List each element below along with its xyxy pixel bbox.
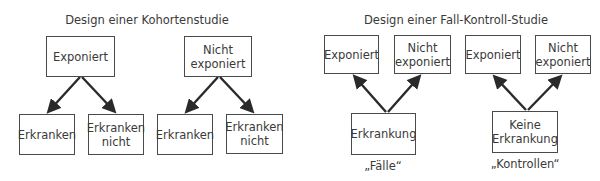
cohort-exposed-not-sick-label: Erkranken nicht xyxy=(87,121,145,149)
arrow-exposed-to-not-sick xyxy=(82,77,114,111)
controls-not-exposed-box: Nicht exponiert xyxy=(535,35,591,74)
controls-exposed-label: Exponiert xyxy=(465,48,520,62)
cohort-exposed-label: Exponiert xyxy=(53,50,108,64)
arrow-cases-to-exposed xyxy=(355,77,386,112)
cases-not-exposed-label: Nicht exponiert xyxy=(395,41,450,69)
cohort-not-exposed-not-sick-label: Erkranken nicht xyxy=(225,120,283,148)
cases-exposed-label: Exponiert xyxy=(324,48,379,62)
cohort-not-exposed-box: Nicht exponiert xyxy=(184,36,252,77)
cohort-exposed-not-sick-box: Erkranken nicht xyxy=(88,114,144,155)
controls-not-exposed-label: Nicht exponiert xyxy=(536,41,591,69)
controls-label: Keine Erkrankung xyxy=(492,118,558,146)
arrow-controls-to-not-exposed xyxy=(528,77,560,110)
controls-exposed-box: Exponiert xyxy=(465,35,521,74)
cases-not-exposed-box: Nicht exponiert xyxy=(394,35,451,74)
cases-label: Erkrankung xyxy=(351,127,417,141)
case-control-title: Design einer Fall-Kontroll-Studie xyxy=(364,13,548,27)
arrow-controls-to-exposed xyxy=(495,77,526,110)
arrow-not-exposed-to-sick xyxy=(187,77,218,111)
cohort-exposed-sick-label: Erkranken xyxy=(18,128,76,142)
cohort-exposed-sick-box: Erkranken xyxy=(19,114,75,155)
controls-box: Keine Erkrankung xyxy=(492,111,558,153)
cohort-not-exposed-sick-box: Erkranken xyxy=(157,114,213,155)
cohort-exposed-box: Exponiert xyxy=(46,36,115,77)
cases-box: Erkrankung xyxy=(351,113,416,155)
cases-caption: „Fälle“ xyxy=(364,159,402,173)
arrow-not-exposed-to-not-sick xyxy=(220,77,252,111)
cohort-title: Design einer Kohortenstudie xyxy=(65,13,229,27)
arrow-exposed-to-sick xyxy=(49,77,80,111)
arrow-cases-to-not-exposed xyxy=(388,77,419,112)
cohort-not-exposed-not-sick-box: Erkranken nicht xyxy=(226,114,283,154)
controls-caption: „Kontrollen“ xyxy=(491,157,560,171)
cohort-not-exposed-label: Nicht exponiert xyxy=(191,43,246,71)
cases-exposed-box: Exponiert xyxy=(324,35,379,74)
cohort-not-exposed-sick-label: Erkranken xyxy=(156,128,214,142)
